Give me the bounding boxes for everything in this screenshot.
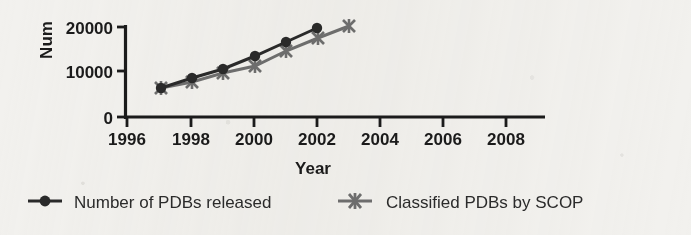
x-tick-label-2000: 2000 <box>235 130 273 149</box>
cross-marker <box>343 19 355 33</box>
circle-marker <box>312 23 322 33</box>
x-tick-label-2008: 2008 <box>487 130 525 149</box>
x-tick-label-2002: 2002 <box>298 130 336 149</box>
chart-legend: Number of PDBs released Classified PDBs … <box>28 193 583 212</box>
x-tick-label-1996: 1996 <box>108 130 146 149</box>
circle-marker <box>281 37 291 47</box>
circle-marker <box>156 83 166 93</box>
circle-marker <box>250 51 260 61</box>
circle-marker <box>187 73 197 83</box>
y-axis-title: Num <box>37 21 56 59</box>
series-number-of-pdbs-released <box>156 23 322 93</box>
series-1-line <box>161 28 317 88</box>
y-tick-labels: 20000 10000 0 <box>66 19 113 128</box>
y-tick-label-10000: 10000 <box>66 63 113 82</box>
x-tick-label-2004: 2004 <box>361 130 399 149</box>
legend-label-2: Classified PDBs by SCOP <box>386 193 583 212</box>
y-tick-label-0: 0 <box>104 109 113 128</box>
circle-marker <box>218 64 228 74</box>
chart-axes <box>117 25 545 127</box>
x-tick-label-2006: 2006 <box>424 130 462 149</box>
x-axis-title: Year <box>295 159 331 178</box>
legend-item-classified-pdbs-by-scop[interactable]: Classified PDBs by SCOP <box>338 193 583 212</box>
legend-item-number-of-pdbs-released[interactable]: Number of PDBs released <box>28 193 271 212</box>
x-tick-label-1998: 1998 <box>172 130 210 149</box>
y-tick-label-20000: 20000 <box>66 19 113 38</box>
x-tick-labels: 1996 1998 2000 2002 2004 2006 2008 <box>108 130 525 149</box>
line-chart: 20000 10000 0 1996 1998 2000 2002 2004 2… <box>0 0 691 235</box>
legend-circle-marker-icon <box>28 196 62 207</box>
chart-figure: 20000 10000 0 1996 1998 2000 2002 2004 2… <box>0 0 691 235</box>
legend-label-1: Number of PDBs released <box>74 193 271 212</box>
legend-cross-marker-icon <box>338 193 372 209</box>
